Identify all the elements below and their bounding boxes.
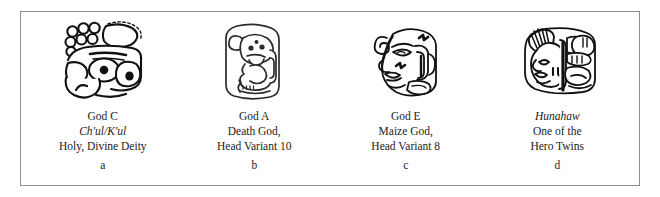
caption-b-line1: God A [217, 109, 292, 124]
glyph-columns-container: God C Ch'ul/K'ul Holy, Divine Deity a [21, 12, 639, 185]
caption-c-line1: God E [371, 109, 440, 124]
caption-c: God E Maize God, Head Variant 8 [371, 109, 440, 155]
caption-a-line2: Ch'ul/K'ul [59, 124, 147, 139]
maya-glyph-god-c-icon [60, 18, 146, 102]
caption-a-line1: God C [59, 109, 147, 124]
caption-d: Hunahaw One of the Hero Twins [530, 109, 584, 155]
caption-a: God C Ch'ul/K'ul Holy, Divine Deity [59, 109, 147, 155]
caption-b-line3: Head Variant 10 [217, 139, 292, 154]
caption-a-line3: Holy, Divine Deity [59, 139, 147, 154]
maya-glyph-god-e-maize-god-icon [371, 18, 441, 102]
caption-d-line3: Hero Twins [530, 139, 584, 154]
glyph-column-d: Hunahaw One of the Hero Twins d [482, 16, 634, 185]
panel-letter-d: d [554, 159, 560, 171]
panel-letter-c: c [403, 159, 408, 171]
caption-d-line2: One of the [530, 124, 584, 139]
glyph-column-a: God C Ch'ul/K'ul Holy, Divine Deity a [27, 16, 179, 185]
caption-d-line1: Hunahaw [530, 109, 584, 124]
glyph-column-b: God A Death God, Head Variant 10 b [179, 16, 331, 185]
caption-b: God A Death God, Head Variant 10 [217, 109, 292, 155]
caption-c-line3: Head Variant 8 [371, 139, 440, 154]
panel-letter-a: a [100, 159, 105, 171]
figure-root: God C Ch'ul/K'ul Holy, Divine Deity a [0, 0, 660, 197]
maya-glyph-god-a-death-god-icon [223, 18, 285, 102]
figure-frame-border: God C Ch'ul/K'ul Holy, Divine Deity a [20, 11, 640, 186]
maya-glyph-hunahaw-hero-twin-icon [517, 18, 597, 102]
caption-c-line2: Maize God, [371, 124, 440, 139]
glyph-column-c: God E Maize God, Head Variant 8 c [330, 16, 482, 185]
caption-b-line2: Death God, [217, 124, 292, 139]
panel-letter-b: b [251, 159, 257, 171]
